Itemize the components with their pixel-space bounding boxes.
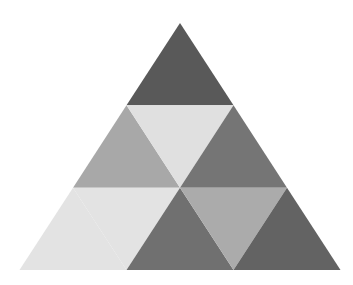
- triangle-figure: [0, 0, 353, 285]
